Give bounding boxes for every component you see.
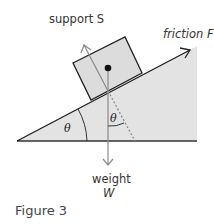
base-angle-label: θ (64, 122, 71, 135)
support-label: support S (49, 12, 104, 26)
weight-symbol: W (103, 186, 114, 200)
figure-caption: Figure 3 (15, 203, 67, 218)
friction-label: friction F (163, 27, 214, 41)
inner-angle-label: θ (110, 112, 117, 125)
weight-label: weight (92, 172, 131, 186)
center-of-mass-dot (105, 65, 112, 72)
